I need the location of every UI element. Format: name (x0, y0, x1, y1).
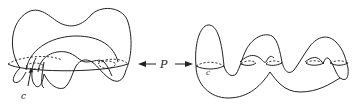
map-p: P (138, 58, 193, 71)
meridian-3-back (266, 61, 282, 64)
meridian-5-back (330, 61, 348, 63)
meridian-4-front (306, 63, 324, 65)
meridian-2-back (241, 61, 256, 64)
curve-c-left (26, 63, 44, 69)
meridian-3-front (266, 63, 282, 65)
left-surface: c (8, 8, 131, 101)
curve-c-back (196, 62, 224, 66)
diagram-canvas: c P c (0, 0, 355, 107)
right-bottom-boundary (196, 66, 340, 98)
left-lobe-outer (13, 68, 26, 83)
right-top-boundary (196, 25, 349, 80)
meridian-2-front (241, 63, 256, 65)
right-curve-label: c (206, 69, 210, 77)
handle-lower-arc (38, 52, 112, 76)
map-label: P (159, 58, 168, 71)
left-arrow-icon (138, 61, 146, 67)
right-arrow-icon (185, 61, 193, 67)
curve-c-front (196, 66, 224, 69)
left-curve-label: c (21, 91, 26, 101)
right-surface: c (196, 25, 349, 98)
